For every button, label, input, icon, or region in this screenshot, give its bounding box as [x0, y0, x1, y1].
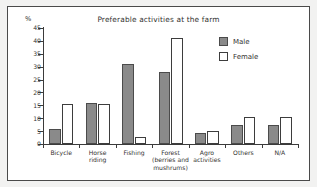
- bar-female: [171, 38, 183, 144]
- x-axis-category-label-line: mushrums): [148, 164, 192, 171]
- bar-male: [49, 129, 61, 144]
- y-axis-tick-label: 15: [33, 102, 41, 109]
- bar-male: [268, 125, 280, 144]
- legend-swatch-female-icon: [219, 52, 228, 61]
- x-axis-tick-mark: [262, 144, 263, 148]
- bar-male: [122, 64, 134, 144]
- legend: Male Female: [219, 37, 258, 67]
- x-axis-tick-mark: [298, 144, 299, 148]
- x-axis-category-label-line: activities: [185, 156, 229, 163]
- plot-area: [43, 28, 298, 144]
- bar-female: [280, 117, 292, 144]
- page-title: Preferable activities at the farm: [8, 15, 309, 24]
- x-axis-tick-mark: [152, 144, 153, 148]
- y-axis-tick-label: 35: [33, 50, 41, 57]
- y-axis-tick-label: 30: [33, 63, 41, 70]
- bar-female: [244, 117, 256, 144]
- x-axis-category-label-line: N/A: [258, 149, 302, 156]
- y-axis-tick-label: 25: [33, 76, 41, 83]
- y-axis-tick-label: 10: [33, 115, 41, 122]
- x-axis-tick-mark: [43, 144, 44, 148]
- legend-label-male: Male: [233, 38, 250, 46]
- y-axis-unit-label: %: [25, 15, 31, 23]
- bar-female: [135, 137, 147, 144]
- bar-female: [62, 104, 74, 144]
- figure-root: Preferable activities at the farm % 0510…: [0, 0, 317, 187]
- y-axis-tick-label: 0: [37, 140, 41, 147]
- x-axis-tick-mark: [189, 144, 190, 148]
- y-axis-tick-label: 20: [33, 89, 41, 96]
- bar-male: [195, 133, 207, 144]
- x-axis-category-label: N/A: [258, 149, 302, 156]
- x-axis-tick-mark: [79, 144, 80, 148]
- legend-label-female: Female: [233, 53, 258, 61]
- bar-male: [159, 72, 171, 144]
- y-axis-tick-label: 5: [37, 128, 41, 135]
- bar-female: [98, 104, 110, 144]
- legend-swatch-male-icon: [219, 37, 228, 46]
- bar-male: [86, 103, 98, 145]
- chart-frame: Preferable activities at the farm % 0510…: [7, 6, 310, 181]
- legend-item-female: Female: [219, 52, 258, 61]
- bar-female: [207, 131, 219, 144]
- x-axis-tick-mark: [116, 144, 117, 148]
- legend-item-male: Male: [219, 37, 258, 46]
- x-axis-tick-mark: [225, 144, 226, 148]
- y-axis-tick-label: 45: [33, 24, 41, 31]
- y-axis-tick-label: 40: [33, 37, 41, 44]
- bar-male: [231, 125, 243, 144]
- x-axis-category-label-line: riding: [75, 156, 119, 163]
